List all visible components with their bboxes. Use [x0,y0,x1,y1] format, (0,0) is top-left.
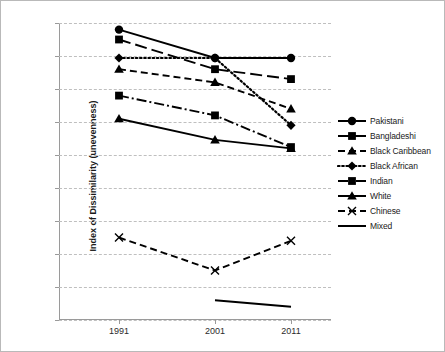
data-point-marker [115,92,123,100]
chart-figure: Index of Dissimilarity (unevenness) 3035… [0,0,445,352]
legend-key-icon [337,145,367,157]
data-point-marker [287,75,295,83]
data-point-marker [115,25,123,33]
legend-key-icon [337,190,367,202]
plot-area: 30354045505560657075 199120012011 [59,23,331,320]
series-layer [59,23,331,320]
legend-key-icon [337,175,367,187]
data-point-marker [115,36,123,44]
legend-label: Indian [370,176,393,186]
data-point-marker [114,114,124,122]
data-point-marker [287,54,295,62]
data-point-marker [211,65,219,73]
x-tick-mark [291,320,292,324]
series-line [119,238,291,271]
x-tick-label: 2001 [205,326,225,336]
legend-key-icon [337,130,367,142]
x-tick-label: 2011 [281,326,300,336]
legend-label: Chinese [370,206,401,216]
legend-item[interactable]: Black African [337,158,441,173]
data-point-marker [211,267,219,275]
data-point-marker [287,237,295,245]
legend-key-icon [337,205,367,217]
legend-item[interactable]: Bangladeshi [337,128,441,143]
data-point-marker [286,104,296,112]
legend-label: White [370,191,391,201]
legend-label: Black African [370,161,418,171]
series-line [215,300,291,307]
legend-key-icon [337,115,367,127]
legend-item[interactable]: Pakistani [337,113,441,128]
legend-key-icon [337,160,367,172]
legend-item[interactable]: Black Caribbean [337,143,441,158]
legend-item[interactable]: Indian [337,173,441,188]
series-line [119,119,291,149]
legend-key-icon [337,220,367,232]
legend-item[interactable]: White [337,188,441,203]
x-tick-mark [215,320,216,324]
legend-item[interactable]: Mixed [337,218,441,233]
y-tick-mark [55,320,59,321]
chart-legend: PakistaniBangladeshiBlack CaribbeanBlack… [337,113,441,233]
legend-label: Pakistani [370,116,404,126]
legend-label: Bangladeshi [370,131,416,141]
data-point-marker [114,53,123,62]
data-point-marker [211,112,219,120]
data-point-marker [114,64,124,72]
x-tick-mark [119,320,120,324]
series-line [119,58,291,125]
series-line [119,30,291,58]
legend-label: Mixed [370,221,392,231]
legend-item[interactable]: Chinese [337,203,441,218]
legend-label: Black Caribbean [370,146,431,156]
x-tick-label: 1991 [109,326,129,336]
